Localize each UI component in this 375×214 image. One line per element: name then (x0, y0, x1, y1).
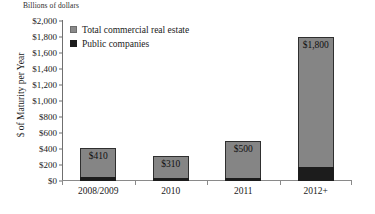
y-axis-tick-mark (59, 21, 62, 22)
bar-segment-public-companies (298, 167, 334, 181)
bar-segment-total-commercial-real-estate (298, 37, 334, 181)
y-axis-tick-mark (59, 149, 62, 150)
bar-2010[interactable]: $310 (153, 156, 189, 181)
gray-square-swatch-icon (70, 26, 77, 33)
bar-2011[interactable]: $500 (225, 141, 261, 181)
chart-legend: Total commercial real estate Public comp… (70, 23, 189, 51)
y-axis-tick-label: $1,400 (32, 64, 62, 74)
bar-segment-public-companies (153, 178, 189, 181)
y-axis-tick-label: $1,800 (32, 32, 62, 42)
x-axis-label: 2010 (161, 186, 180, 196)
bar-segment-public-companies (80, 177, 116, 181)
x-axis-tick-mark (280, 181, 281, 185)
bar-value-label: $310 (153, 159, 189, 169)
bar-value-label: $1,800 (298, 40, 334, 50)
chart-units-caption: Billions of dollars (23, 1, 79, 10)
y-axis-tick-label: $1,000 (32, 96, 62, 106)
x-axis-tick-mark (62, 181, 63, 185)
bar-2012-[interactable]: $1,800 (298, 37, 334, 181)
y-axis-tick-mark (59, 101, 62, 102)
y-axis-tick-label: $1,600 (32, 48, 62, 58)
x-axis-label: 2012+ (304, 186, 328, 196)
x-axis-label: 2008/2009 (78, 186, 119, 196)
y-axis-tick-mark (59, 133, 62, 134)
y-axis-tick-label: $1,200 (32, 80, 62, 90)
x-axis-tick-mark (207, 181, 208, 185)
legend-item-label: Public companies (82, 39, 149, 49)
y-axis-title-wrapper: $ of Maturity per Year (16, 20, 26, 170)
legend-item-total-commercial-real-estate: Total commercial real estate (70, 23, 189, 36)
y-axis-tick-mark (59, 165, 62, 166)
y-axis-tick-mark (59, 69, 62, 70)
y-axis-tick-label: $2,000 (32, 16, 62, 26)
bar-segment-public-companies (225, 178, 261, 181)
bar-2008-2009[interactable]: $410 (80, 148, 116, 181)
x-axis-label: 2011 (234, 186, 253, 196)
bar-value-label: $410 (80, 151, 116, 161)
black-square-swatch-icon (70, 40, 77, 47)
x-axis-tick-mark (135, 181, 136, 185)
y-axis-tick-mark (59, 117, 62, 118)
y-axis-tick-mark (59, 53, 62, 54)
x-axis-tick-mark (351, 181, 352, 185)
chart-container: Billions of dollars $ of Maturity per Ye… (0, 0, 375, 214)
legend-item-label: Total commercial real estate (82, 25, 189, 35)
legend-item-public-companies: Public companies (70, 37, 189, 50)
y-axis-line (62, 20, 63, 182)
y-axis-tick-mark (59, 85, 62, 86)
y-axis-tick-mark (59, 37, 62, 38)
bar-value-label: $500 (225, 144, 261, 154)
y-axis-title: $ of Maturity per Year (16, 20, 26, 170)
